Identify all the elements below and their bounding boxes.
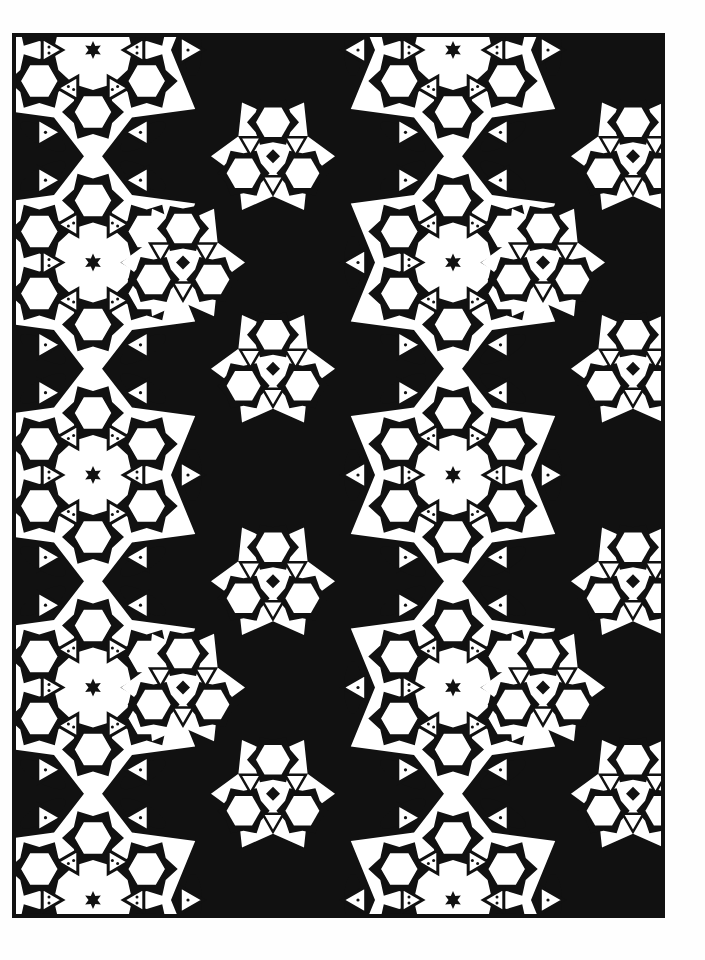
artwork-frame	[12, 33, 665, 918]
tessellation-artwork	[12, 33, 665, 918]
coloring-page	[0, 0, 705, 960]
